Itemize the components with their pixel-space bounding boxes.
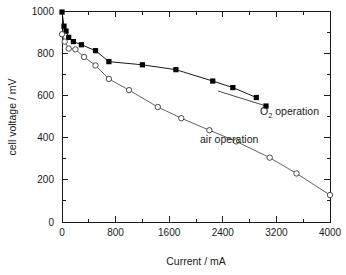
y-tick-label: 200 xyxy=(37,174,54,185)
data-point-square xyxy=(210,78,215,83)
series-label-air-operation: air operation xyxy=(200,133,259,145)
data-point-square xyxy=(79,42,84,47)
chart-figure: 08001600240032004000 02004006008001000 O… xyxy=(0,0,346,275)
data-point-square xyxy=(254,95,259,100)
data-point-circle xyxy=(66,46,71,51)
data-point-circle xyxy=(267,155,272,160)
data-point-square xyxy=(106,59,111,64)
data-point-circle xyxy=(126,87,131,92)
data-point-square xyxy=(230,85,235,90)
data-point-square xyxy=(93,48,98,53)
data-point-circle xyxy=(81,54,86,59)
data-point-circle xyxy=(62,39,67,44)
x-tick-label: 3200 xyxy=(265,227,288,238)
x-tick-label: 1600 xyxy=(158,227,181,238)
y-axis-title: cell voltage / mV xyxy=(6,78,18,155)
data-point-square xyxy=(61,24,66,29)
data-point-square xyxy=(140,62,145,67)
y-tick-label: 0 xyxy=(48,217,54,228)
x-tick-label: 4000 xyxy=(319,227,342,238)
data-point-square xyxy=(173,67,178,72)
x-tick-label: 0 xyxy=(59,227,65,238)
x-tick-label: 2400 xyxy=(212,227,235,238)
data-point-circle xyxy=(93,63,98,68)
chart-plot-area: 08001600240032004000 02004006008001000 O… xyxy=(0,0,346,275)
data-point-circle xyxy=(327,192,332,197)
x-tick-label: 800 xyxy=(107,227,124,238)
x-axis-title: Current / mA xyxy=(166,255,226,267)
y-tick-label: 600 xyxy=(37,90,54,101)
data-point-circle xyxy=(106,76,111,81)
y-tick-label: 400 xyxy=(37,132,54,143)
data-point-square xyxy=(66,35,71,40)
data-point-square xyxy=(71,39,76,44)
y-tick-label: 1000 xyxy=(32,6,55,17)
data-point-circle xyxy=(179,115,184,120)
data-point-circle xyxy=(73,47,78,52)
data-point-circle xyxy=(155,104,160,109)
data-point-square xyxy=(59,9,64,14)
data-point-circle xyxy=(59,32,64,37)
y-tick-label: 800 xyxy=(37,48,54,59)
data-point-circle xyxy=(294,171,299,176)
